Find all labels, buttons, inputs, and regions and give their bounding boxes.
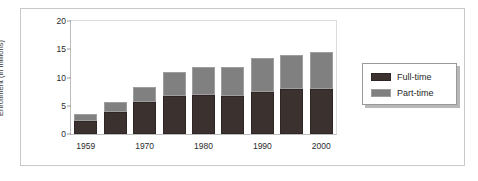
bar-segment-full-time: [251, 92, 274, 134]
legend-item-label: Full-time: [397, 72, 432, 82]
y-tick-mark: [67, 21, 71, 22]
legend-item-full-time[interactable]: Full-time: [371, 70, 456, 84]
bar-segment-full-time: [74, 121, 97, 134]
stacked-bar: [192, 67, 215, 134]
y-tick-label: 10: [57, 73, 66, 83]
stacked-bar: [74, 114, 97, 134]
y-tick-mark: [67, 134, 71, 135]
gray-swatch-icon: [371, 89, 391, 97]
bar-segment-full-time: [133, 102, 156, 134]
bar-segment-part-time: [104, 102, 127, 112]
bar-segment-full-time: [163, 96, 186, 134]
x-tick-label: 1990: [253, 141, 272, 151]
plot-area: 05101520 19591970198019902000: [70, 20, 337, 135]
y-tick-label: 5: [61, 101, 66, 111]
bar-segment-part-time: [74, 114, 97, 121]
chart-legend: Full-time Part-time: [362, 63, 457, 105]
bar-segment-full-time: [310, 89, 333, 134]
chart-figure: Enrollment (in millions) 05101520 195919…: [0, 0, 478, 181]
bar-segment-part-time: [133, 87, 156, 103]
x-tick-label: 1959: [76, 141, 95, 151]
legend-item-label: Part-time: [397, 88, 434, 98]
bar-segment-full-time: [192, 95, 215, 134]
stacked-bar: [163, 72, 186, 134]
stacked-bar: [221, 67, 244, 134]
y-tick-mark: [67, 105, 71, 106]
bar-segment-full-time: [104, 112, 127, 134]
stacked-bar: [104, 102, 127, 134]
legend-item-part-time[interactable]: Part-time: [371, 86, 456, 100]
x-tick-label: 1970: [135, 141, 154, 151]
bar-segment-part-time: [310, 52, 333, 89]
y-tick-label: 0: [61, 129, 66, 139]
y-tick-label: 15: [57, 44, 66, 54]
stacked-bar: [251, 58, 274, 134]
bar-segment-part-time: [192, 67, 215, 95]
dark-swatch-icon: [371, 73, 391, 81]
x-tick-label: 1980: [194, 141, 213, 151]
bar-segment-part-time: [221, 67, 244, 96]
y-tick-label: 20: [57, 16, 66, 26]
x-tick-label: 2000: [312, 141, 331, 151]
bar-segment-part-time: [251, 58, 274, 92]
bar-segment-full-time: [280, 89, 303, 134]
stacked-bar: [280, 55, 303, 134]
bar-segment-full-time: [221, 96, 244, 134]
stacked-bar: [310, 52, 333, 134]
y-axis-label: Enrollment (in millions): [0, 18, 5, 138]
bar-segment-part-time: [280, 55, 303, 89]
y-tick-mark: [67, 77, 71, 78]
y-tick-mark: [67, 49, 71, 50]
stacked-bar: [133, 87, 156, 134]
bar-segment-part-time: [163, 72, 186, 96]
